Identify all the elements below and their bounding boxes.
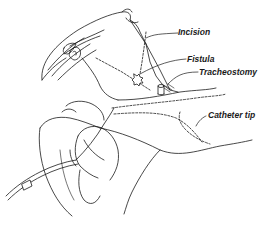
hands <box>62 101 119 203</box>
medical-illustration: Incision Fistula Tracheostomy Catheter t… <box>0 0 261 226</box>
label-tracheostomy: Tracheostomy <box>199 68 257 77</box>
leader-lines <box>140 33 206 126</box>
label-fistula: Fistula <box>187 55 214 64</box>
label-incision: Incision <box>178 28 210 37</box>
label-catheter-tip: Catheter tip <box>208 111 255 120</box>
catheter-tube <box>6 108 114 200</box>
head-outline <box>42 9 170 90</box>
tracheostomy-tube <box>158 85 164 95</box>
torso-outline <box>39 117 252 216</box>
